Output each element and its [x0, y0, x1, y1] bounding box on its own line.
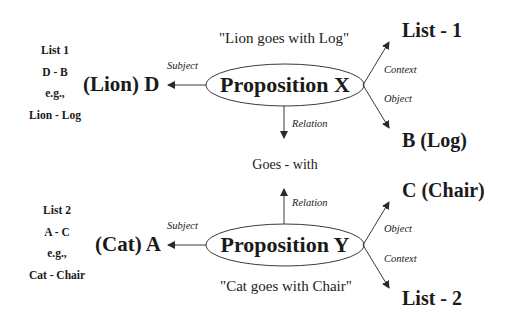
object-arrow-x [363, 85, 389, 128]
context-node-y: List - 2 [402, 287, 462, 310]
proposition-x-label: Proposition X [220, 72, 350, 98]
proposition-x-quote: "Lion goes with Log" [219, 30, 349, 47]
subject-node-x: (Lion) D [83, 72, 159, 97]
context-node-x: List - 1 [402, 19, 462, 42]
list-info-line: Lion - Log [29, 105, 81, 127]
list-info-line: List 2 [29, 200, 85, 222]
context-edge-label-x: Context [384, 64, 417, 75]
list-info-line: D - B [29, 62, 81, 84]
list-info-x: List 1 D - B e.g., Lion - Log [29, 40, 81, 126]
object-node-y: C (Chair) [402, 179, 485, 202]
list-info-line: e.g., [29, 83, 81, 105]
object-edge-label-y: Object [384, 223, 412, 234]
shared-relation-node: Goes - with [252, 157, 317, 173]
object-edge-label-x: Object [384, 93, 412, 104]
relation-edge-label-y: Relation [292, 197, 328, 208]
list-info-line: List 1 [29, 40, 81, 62]
list-info-line: Cat - Chair [29, 265, 85, 287]
object-node-x: B (Log) [402, 129, 467, 152]
proposition-diagram: List 1 D - B e.g., Lion - Log (Lion) D S… [0, 0, 509, 321]
list-info-y: List 2 A - C e.g., Cat - Chair [29, 200, 85, 286]
context-arrow-y [363, 245, 389, 288]
proposition-y-quote: "Cat goes with Chair" [220, 278, 352, 295]
list-info-line: e.g., [29, 243, 85, 265]
context-edge-label-y: Context [384, 253, 417, 264]
subject-edge-label-x: Subject [167, 60, 198, 71]
subject-edge-label-y: Subject [167, 220, 198, 231]
relation-edge-label-x: Relation [292, 118, 328, 129]
list-info-line: A - C [29, 222, 85, 244]
proposition-y-label: Proposition Y [221, 232, 350, 258]
subject-node-y: (Cat) A [95, 232, 161, 257]
